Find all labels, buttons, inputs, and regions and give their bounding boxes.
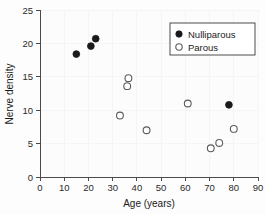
data-point: [125, 75, 132, 82]
scatter-plot-figure: 0102030405060708090 0510152025 Age (year…: [0, 0, 266, 214]
y-tick-label: 0: [28, 172, 33, 183]
x-tick-labels: 0102030405060708090: [37, 182, 263, 193]
y-tick-label: 10: [22, 105, 33, 116]
y-axis-title: Nerve density: [4, 63, 15, 124]
data-point: [87, 43, 94, 50]
legend-marker-filled-circle-icon: [176, 31, 182, 37]
data-point: [226, 101, 233, 108]
legend-label: Nulliparous: [188, 29, 236, 40]
data-point: [92, 35, 99, 42]
data-point: [143, 127, 150, 134]
data-point: [73, 51, 80, 58]
legend-label: Parous: [188, 42, 218, 53]
x-axis-title: Age (years): [123, 198, 175, 209]
legend-marker-open-circle-icon: [176, 44, 182, 50]
x-tick-label: 10: [59, 182, 70, 193]
y-tick-labels: 0510152025: [22, 5, 33, 183]
x-tick-label: 0: [37, 182, 42, 193]
data-point: [124, 83, 131, 90]
data-point: [207, 145, 214, 152]
legend: NulliparousParous: [170, 23, 255, 55]
data-point: [216, 140, 223, 147]
plot-canvas: 0102030405060708090 0510152025 Age (year…: [0, 0, 266, 214]
x-tick-label: 80: [228, 182, 239, 193]
data-point: [117, 112, 124, 119]
data-point: [184, 100, 191, 107]
x-tick-label: 50: [156, 182, 167, 193]
y-tick-label: 15: [22, 71, 33, 82]
x-tick-label: 20: [83, 182, 94, 193]
x-tick-label: 90: [253, 182, 264, 193]
data-point: [230, 126, 237, 133]
x-tick-label: 70: [204, 182, 215, 193]
x-tick-label: 40: [132, 182, 143, 193]
y-tick-label: 5: [28, 138, 33, 149]
y-tick-label: 20: [22, 38, 33, 49]
y-tick-label: 25: [22, 5, 33, 16]
x-tick-label: 60: [180, 182, 191, 193]
x-tick-label: 30: [107, 182, 118, 193]
